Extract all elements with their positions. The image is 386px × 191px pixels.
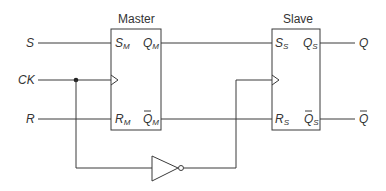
input-label-s: S	[26, 36, 34, 50]
input-label-ck: CK	[18, 73, 36, 87]
output-label-qbar: Q	[359, 112, 368, 126]
master-flipflop: Master SM QM RM QM	[111, 12, 161, 130]
inverter-triangle-icon	[152, 156, 178, 181]
input-label-r: R	[26, 112, 35, 126]
wire-inverted-clock-to-slave	[184, 80, 272, 168]
output-label-q: Q	[359, 36, 368, 50]
master-slave-flipflop-diagram: S CK R Master SM QM RM QM Slave SS QS	[0, 0, 386, 191]
inverter-bubble-icon	[179, 166, 184, 171]
slave-title: Slave	[283, 12, 313, 26]
master-title: Master	[118, 12, 155, 26]
inverter	[152, 156, 184, 181]
slave-flipflop: Slave SS QS RS QS	[272, 12, 320, 130]
